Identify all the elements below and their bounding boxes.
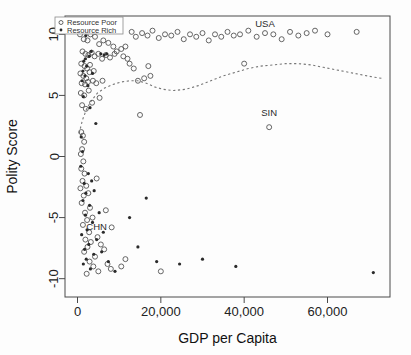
data-point [80,135,83,138]
data-point [145,33,150,38]
data-point [93,189,96,192]
data-point [81,150,84,153]
data-point [156,35,161,40]
data-point [133,34,138,39]
data-point [131,66,136,71]
data-point [150,28,155,33]
y-axis-title: Polity Score [4,119,20,194]
data-point [82,60,85,63]
data-point [91,72,94,75]
data-point [97,95,102,100]
series-resource-poor [78,28,360,276]
data-point [140,31,145,36]
data-point [288,29,293,34]
data-point [123,257,128,262]
series-resource-rich [79,28,375,274]
data-point [105,52,108,55]
data-point [175,29,180,34]
data-point [90,50,93,53]
data-point [100,250,103,253]
data-point [86,84,89,87]
data-point [219,34,224,39]
data-point [158,269,163,274]
data-point [79,165,82,168]
y-tick-label-3: -5 [47,212,62,224]
annotation-sin: SIN [261,107,277,118]
legend-label-resource-rich[interactable]: Resource Rich [67,26,116,35]
data-point [231,33,236,38]
data-point [142,76,147,81]
data-point [99,52,102,55]
y-tick-label-1: 5 [47,92,62,99]
data-point [127,61,132,66]
loess-curve-layer [79,64,382,134]
data-point [85,64,88,67]
data-point [82,262,85,265]
data-point [188,32,193,37]
data-point [200,31,205,36]
loess-fit-curve [79,64,382,134]
data-point [94,122,97,125]
legend-layer: Resource PoorResource Rich [55,17,123,35]
data-point [155,260,158,263]
data-point [84,271,89,276]
data-point [304,31,309,36]
data-point [83,74,86,77]
data-point [90,179,93,182]
data-point [87,259,92,264]
data-point [121,54,126,59]
data-point [92,253,95,256]
data-point [178,262,181,265]
data-point [88,55,91,58]
data-point [145,196,148,199]
data-point [271,32,276,37]
data-point [169,33,174,38]
data-point [98,211,101,214]
x-axis-title: GDP per Capita [178,330,277,346]
data-point [94,176,99,181]
data-point [109,225,114,230]
data-point [119,46,124,51]
data-point [279,37,284,42]
data-point [88,62,93,67]
x-tick-label-3: 60,000 [308,304,348,319]
data-point [89,267,92,270]
data-point [163,32,168,37]
data-point [108,266,113,271]
data-point [85,258,88,261]
data-point [242,61,247,66]
data-point [181,37,186,42]
data-point [101,38,106,43]
x-tick-label-0: 0 [74,304,81,319]
y-tick-label-2: 0 [47,153,62,160]
data-point [213,32,218,37]
data-point [96,269,101,274]
data-point [146,64,151,69]
data-point [113,270,116,273]
data-point [81,199,84,202]
data-point [128,216,131,219]
data-point [83,106,88,111]
data-point [81,69,84,72]
data-point [95,238,98,241]
data-point [81,159,86,164]
data-point [88,106,91,109]
data-point [238,32,243,37]
plot-frame [65,16,390,297]
data-point [296,33,301,38]
data-point [87,243,90,246]
data-point [107,260,110,263]
data-point [111,44,116,49]
data-point [78,186,83,191]
x-tick-label-1: 20,000 [141,304,181,319]
data-point [234,265,237,268]
data-point [100,78,105,83]
annotation-usa: USA [255,18,275,29]
data-point [254,34,259,39]
data-point [148,73,153,78]
data-point [354,29,359,34]
annotation-chn: CHN [86,221,107,232]
data-point [90,100,95,105]
data-point [138,112,143,117]
data-point [88,204,91,207]
